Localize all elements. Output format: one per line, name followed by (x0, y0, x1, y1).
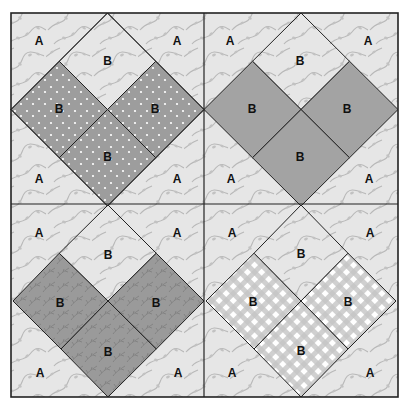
quilt-block-bottom-right: A A A A B B B B (206, 205, 396, 397)
label-a: A (174, 366, 183, 380)
label-b: B (343, 102, 352, 116)
label-b: B (103, 54, 112, 68)
label-a: A (364, 34, 373, 48)
label-a: A (35, 172, 44, 186)
label-b: B (296, 150, 305, 164)
label-a: A (366, 226, 375, 240)
quilt-diagram: A A A A B B B B A A A A B B B B A A A A … (0, 0, 407, 410)
label-b: B (56, 296, 65, 310)
label-a: A (173, 172, 182, 186)
label-a: A (226, 34, 235, 48)
label-a: A (228, 226, 237, 240)
label-a: A (36, 366, 45, 380)
label-a: A (227, 172, 236, 186)
label-b: B (152, 296, 161, 310)
label-b: B (296, 54, 305, 68)
quilt-block-top-left: A A A A B B B B (11, 13, 204, 206)
quilt-block-top-right: A A A A B B B B (204, 13, 398, 206)
label-b: B (249, 295, 258, 309)
label-b: B (104, 345, 113, 359)
label-a: A (366, 366, 375, 380)
label-b: B (297, 247, 306, 261)
label-b: B (151, 102, 160, 116)
label-a: A (35, 226, 44, 240)
label-b: B (248, 102, 257, 116)
label-a: A (228, 366, 237, 380)
label-b: B (297, 344, 306, 358)
label-a: A (173, 34, 182, 48)
label-a: A (35, 34, 44, 48)
label-b: B (103, 150, 112, 164)
label-a: A (173, 226, 182, 240)
label-b: B (344, 295, 353, 309)
label-b: B (104, 248, 113, 262)
label-a: A (365, 172, 374, 186)
label-b: B (55, 102, 64, 116)
quilt-block-bottom-left: A A A A B B B B (13, 205, 204, 397)
